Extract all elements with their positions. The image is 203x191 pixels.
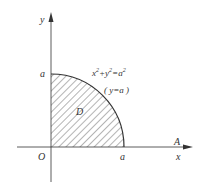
- region-label: D: [75, 106, 84, 117]
- origin-label: O: [38, 151, 45, 162]
- x-axis-arrow-icon: [183, 145, 193, 150]
- quarter-disk-diagram: y x O A a a D x2+y2=a2 ( y=a ): [0, 0, 203, 191]
- y-axis-arrow-icon: [49, 12, 54, 22]
- point-a-label: A: [173, 136, 181, 147]
- x-axis-label: x: [175, 151, 181, 162]
- y-intercept-label: a: [40, 68, 45, 79]
- x-intercept-label: a: [120, 151, 125, 162]
- y-axis-label: y: [39, 14, 45, 25]
- svg-text:x2+y2=a2: x2+y2=a2: [91, 67, 126, 78]
- equation-note: ( y=a ): [104, 85, 129, 95]
